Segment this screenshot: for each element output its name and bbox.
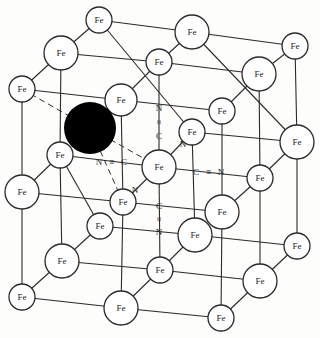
svg-text:≡: ≡ (109, 157, 114, 167)
svg-text:Fe: Fe (18, 187, 27, 197)
svg-text:Fe: Fe (58, 256, 67, 266)
interstitial-ion (64, 102, 116, 154)
svg-text:Fe: Fe (218, 207, 227, 217)
svg-text:≡: ≡ (154, 216, 164, 221)
fe-atom: Fe (9, 76, 35, 102)
svg-text:Fe: Fe (95, 15, 104, 25)
fe-atom: Fe (9, 284, 35, 310)
svg-text:≡: ≡ (154, 119, 164, 124)
svg-text:Fe: Fe (57, 48, 66, 58)
fe-atom: Fe (178, 218, 212, 252)
svg-text:C: C (156, 131, 162, 141)
svg-text:Fe: Fe (18, 84, 27, 94)
crystal-lattice-diagram: NC≡NC≡NC≡NC≡NN FeFeFeFeFeFeFeFeFeFeFeFeF… (0, 0, 320, 338)
fe-atom: Fe (45, 244, 79, 278)
fe-atom: Fe (146, 49, 172, 75)
fe-atom: Fe (242, 57, 276, 91)
svg-text:Fe: Fe (218, 106, 227, 116)
svg-text:N: N (156, 227, 163, 237)
svg-text:Fe: Fe (155, 162, 164, 172)
fe-atom: Fe (142, 150, 176, 184)
svg-text:N: N (156, 103, 163, 113)
svg-text:Fe: Fe (293, 241, 302, 251)
fe-atom: Fe (243, 264, 277, 298)
svg-text:N: N (218, 167, 225, 177)
svg-text:Fe: Fe (117, 95, 126, 105)
fe-atom: Fe (87, 213, 113, 239)
svg-text:C: C (121, 157, 127, 167)
svg-text:C: C (156, 201, 162, 211)
cyanide-group: NC≡ (154, 103, 164, 141)
fe-atom: Fe (282, 33, 308, 59)
svg-text:Fe: Fe (96, 221, 105, 231)
svg-text:Fe: Fe (188, 27, 197, 37)
fe-atom: Fe (247, 165, 273, 191)
svg-text:C: C (193, 167, 199, 177)
svg-text:Fe: Fe (255, 69, 264, 79)
svg-text:Fe: Fe (256, 276, 265, 286)
interstitial-sphere (64, 102, 116, 154)
svg-text:Fe: Fe (117, 303, 126, 313)
fe-atom: Fe (209, 98, 235, 124)
fe-atom: Fe (205, 195, 239, 229)
fe-atom: Fe (5, 175, 39, 209)
fe-atom: Fe (147, 257, 173, 283)
iron-atoms: FeFeFeFeFeFeFeFeFeFeFeFeFeFeFeFeFeFeFeFe… (5, 7, 314, 331)
svg-text:Fe: Fe (191, 230, 200, 240)
fe-atom: Fe (110, 189, 136, 215)
fe-atom: Fe (208, 305, 234, 331)
svg-text:Fe: Fe (291, 41, 300, 51)
fe-atom: Fe (175, 15, 209, 49)
fe-atom: Fe (104, 291, 138, 325)
svg-text:Fe: Fe (293, 137, 302, 147)
svg-text:Fe: Fe (188, 127, 197, 137)
svg-text:Fe: Fe (18, 292, 27, 302)
fe-atom: Fe (47, 142, 73, 168)
fe-atom: Fe (284, 233, 310, 259)
cyanide-group: NC≡ (96, 157, 127, 167)
fe-atom: Fe (44, 36, 78, 70)
cyanide-group: NC≡ (193, 167, 225, 177)
svg-text:Fe: Fe (156, 265, 165, 275)
svg-text:N: N (96, 157, 103, 167)
svg-text:Fe: Fe (217, 313, 226, 323)
svg-text:Fe: Fe (155, 57, 164, 67)
fe-atom: Fe (86, 7, 112, 33)
svg-text:Fe: Fe (256, 173, 265, 183)
svg-text:Fe: Fe (119, 197, 128, 207)
svg-text:≡: ≡ (206, 167, 211, 177)
svg-text:Fe: Fe (56, 150, 65, 160)
lattice-svg: NC≡NC≡NC≡NC≡NN FeFeFeFeFeFeFeFeFeFeFeFeF… (0, 0, 320, 338)
fe-atom: Fe (280, 125, 314, 159)
fe-atom: Fe (179, 119, 205, 145)
